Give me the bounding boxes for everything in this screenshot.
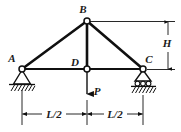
pin-support-hatching <box>11 85 35 91</box>
label-joint-C: C <box>145 53 153 65</box>
dimension-span <box>22 90 143 125</box>
roller-support <box>131 70 156 93</box>
roller-1 <box>135 81 140 86</box>
roller-support-hatching <box>132 87 156 93</box>
joint-D <box>84 66 90 72</box>
label-joint-B: B <box>78 3 86 15</box>
truss-members <box>22 21 143 69</box>
label-dimension-H: H <box>162 37 172 49</box>
joint-C <box>140 66 146 72</box>
label-joint-D: D <box>70 56 79 68</box>
label-joint-A: A <box>7 52 15 64</box>
truss-diagram: A B C D P H L/2 L/2 <box>0 0 181 132</box>
pin-support <box>9 70 35 91</box>
joint-B <box>84 18 90 24</box>
truss-figure-canvas: A B C D P H L/2 L/2 <box>0 0 181 132</box>
member-top-chord-right <box>87 21 143 69</box>
label-dimension-span-right: L/2 <box>106 108 123 120</box>
joint-A <box>19 66 25 72</box>
label-dimension-span-left: L/2 <box>45 108 62 120</box>
truss-joints <box>19 18 146 72</box>
label-load-P: P <box>94 85 101 97</box>
roller-3 <box>146 81 151 86</box>
roller-2 <box>141 81 146 86</box>
